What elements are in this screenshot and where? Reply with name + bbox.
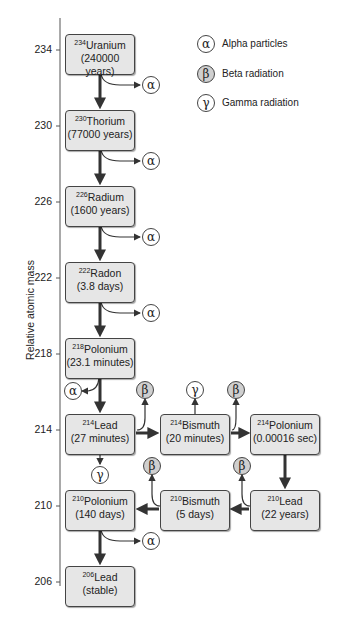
nuclide-polonium-218: 218Polonium(23.1 minutes) bbox=[65, 338, 135, 379]
alpha-icon: α bbox=[64, 382, 82, 400]
legend-gamma-label: Gamma radiation bbox=[222, 97, 299, 108]
nuclide-radon-222: 222Radon(3.8 days) bbox=[65, 262, 135, 303]
alpha-icon: α bbox=[142, 228, 160, 246]
nuclide-lead-210: 210Lead(22 years) bbox=[250, 490, 320, 531]
alpha-icon: α bbox=[142, 152, 160, 170]
gamma-icon: γ bbox=[197, 94, 215, 112]
beta-icon: β bbox=[227, 381, 245, 399]
tick-206: 206 bbox=[22, 575, 52, 587]
alpha-icon: α bbox=[142, 532, 160, 550]
beta-icon: β bbox=[136, 381, 154, 399]
nuclide-uranium-234: 234Uranium(240000 years) bbox=[65, 34, 135, 75]
gamma-icon: γ bbox=[91, 466, 109, 484]
nuclide-bismuth-214: 214Bismuth(20 minutes) bbox=[160, 414, 230, 455]
beta-icon: β bbox=[197, 65, 215, 83]
nuclide-lead-214: 214Lead(27 minutes) bbox=[65, 414, 135, 455]
legend-beta-label: Beta radiation bbox=[222, 68, 284, 79]
nuclide-polonium-214: 214Polonium(0.00016 sec) bbox=[250, 414, 320, 455]
tick-226: 226 bbox=[22, 195, 52, 207]
legend-alpha-label: Alpha particles bbox=[222, 38, 288, 49]
alpha-icon: α bbox=[142, 304, 160, 322]
tick-230: 230 bbox=[22, 119, 52, 131]
alpha-icon: α bbox=[197, 35, 215, 53]
tick-234: 234 bbox=[22, 43, 52, 55]
gamma-icon: γ bbox=[186, 381, 204, 399]
nuclide-thorium-230: 230Thorium(77000 years) bbox=[65, 110, 135, 151]
tick-210: 210 bbox=[22, 499, 52, 511]
beta-icon: β bbox=[233, 457, 251, 475]
nuclide-lead-206: 206Lead(stable) bbox=[65, 566, 135, 607]
nuclide-bismuth-210: 210Bismuth(5 days) bbox=[160, 490, 230, 531]
alpha-icon: α bbox=[142, 76, 160, 94]
tick-222: 222 bbox=[22, 271, 52, 283]
nuclide-polonium-210: 210Polonium(140 days) bbox=[65, 490, 135, 531]
tick-218: 218 bbox=[22, 347, 52, 359]
beta-icon: β bbox=[143, 457, 161, 475]
nuclide-radium-226: 226Radium(1600 years) bbox=[65, 186, 135, 227]
tick-214: 214 bbox=[22, 423, 52, 435]
